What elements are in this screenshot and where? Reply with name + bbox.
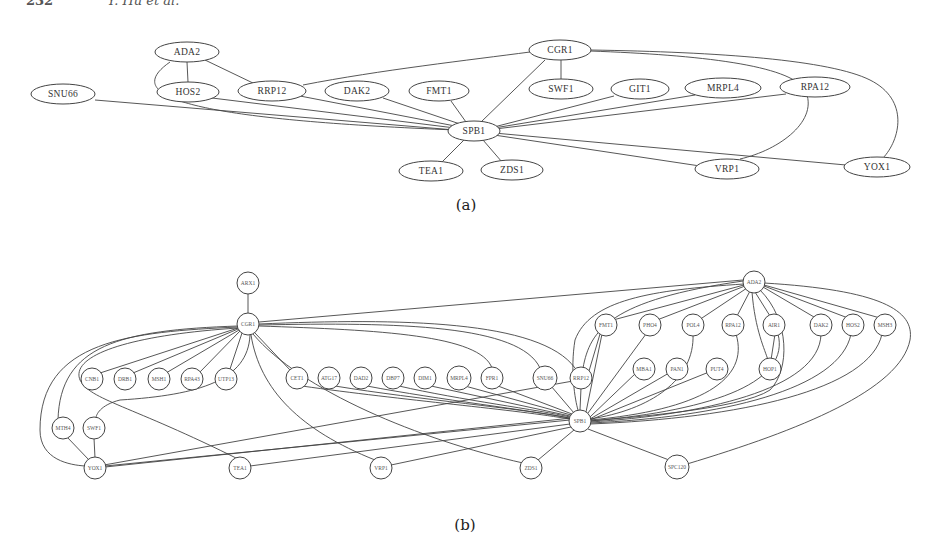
node-b-FPR1: FPR1 [481,367,503,389]
node-b-ARX1: ARX1 [237,272,259,294]
node-label: CGR1 [547,45,572,55]
node-label: SNU66 [48,89,78,99]
node-label: ADA2 [747,279,762,285]
node-b-YOX1: YOX1 [84,457,106,479]
node-label: MRPL4 [707,83,739,93]
node-label: RRP12 [258,86,287,96]
node-b-FMT1: FMT1 [595,314,617,336]
node-b-DRB1: DRB1 [114,368,136,390]
node-label: ZDS1 [524,465,537,471]
node-b-RPA43: RPA43 [181,368,203,390]
node-label: SPB1 [574,418,587,424]
node-label: RPA12 [725,322,741,328]
node-label: VRP1 [715,164,739,174]
node-label: CNB1 [85,376,99,382]
node-b-SPB1: SPB1 [569,410,591,432]
node-label: FPR1 [486,375,499,381]
node-a-SNU66: SNU66 [31,84,95,104]
node-b-PUT4: PUT4 [706,358,728,380]
node-label: SNU66 [537,375,554,381]
figure-canvas: ADA2 SNU66 HOS2 RRP12 DAK2 FMT1 CGR1 SWF… [0,0,935,542]
node-b-HOP1: HOP1 [759,358,781,380]
node-a-YOX1: YOX1 [844,157,910,177]
node-b-PAN1: PAN1 [666,358,688,380]
node-label: SPC120 [668,464,686,470]
node-label: CGR1 [241,321,255,327]
node-b-DBP7: DBP7 [382,367,404,389]
node-b-TEA1: TEA1 [229,457,251,479]
node-label: ATG17 [321,375,337,381]
node-b-MSH3: MSH3 [874,314,896,336]
node-a-ADA2: ADA2 [155,42,219,62]
node-label: MSH3 [878,322,893,328]
node-a-HOS2: HOS2 [157,82,219,102]
node-label: PHO4 [643,322,657,328]
node-label: DIM1 [418,375,432,381]
node-label: ARX1 [241,280,256,286]
node-b-MRPL4: MRPL4 [447,366,471,390]
node-b-CNB1: CNB1 [81,368,103,390]
node-b-RPA12: RPA12 [722,314,744,336]
figure-a-edges [95,50,898,166]
node-b-MSH1: MSH1 [148,368,170,390]
node-label: ZDS1 [500,165,524,175]
node-b-PHO4: PHO4 [639,314,661,336]
node-b-HOS2: HOS2 [842,314,864,336]
node-b-ZDS1: ZDS1 [520,457,542,479]
node-b-POL4: POL4 [682,314,704,336]
node-label: HOP1 [763,366,777,372]
node-label: FMT1 [599,322,613,328]
figure-a-nodes: ADA2 SNU66 HOS2 RRP12 DAK2 FMT1 CGR1 SWF… [31,40,910,181]
node-a-SWF1: SWF1 [529,79,593,99]
node-label: DAK2 [344,86,371,96]
node-label: HOS2 [846,322,860,328]
node-a-DAK2: DAK2 [325,81,389,101]
node-label: RPA43 [184,376,200,382]
node-label: YOX1 [88,465,103,471]
node-a-FMT1: FMT1 [409,81,469,101]
node-a-RRP12: RRP12 [238,81,306,101]
node-label: RPA12 [801,82,830,92]
node-a-VRP1: VRP1 [695,159,759,179]
node-a-ZDS1: ZDS1 [481,160,543,180]
node-label: DRB1 [118,376,132,382]
node-label: GIT1 [629,84,651,94]
node-label: SWF1 [548,84,573,94]
node-label: MBA1 [636,366,652,372]
node-b-DAK2: DAK2 [810,314,832,336]
node-label: MSH1 [152,376,167,382]
node-b-CET1: CET1 [286,367,308,389]
node-a-RPA12: RPA12 [780,77,850,97]
figure-a-caption: (a) [456,196,477,214]
node-label: SWF1 [87,425,101,431]
node-label: FMT1 [426,86,451,96]
node-label: PAN1 [670,366,683,372]
node-label: MRPL4 [450,375,468,381]
node-b-DAD2: DAD2 [350,367,372,389]
node-label: POL4 [686,322,699,328]
node-label: DAD2 [354,375,369,381]
node-b-SPC120: SPC120 [665,455,689,479]
node-b-VRP1: VRP1 [370,457,392,479]
node-label: VRP1 [374,465,388,471]
node-label: RRP12 [573,375,589,381]
node-a-TEA1: TEA1 [399,161,463,181]
node-a-MRPL4: MRPL4 [685,78,761,98]
node-b-MBA1: MBA1 [633,358,655,380]
node-a-GIT1: GIT1 [611,79,669,99]
node-label: MTH4 [56,425,71,431]
node-label: DBP7 [386,375,400,381]
node-a-CGR1: CGR1 [529,40,591,60]
node-label: TEA1 [233,465,247,471]
node-label: SPB1 [463,126,486,136]
node-label: CET1 [290,375,303,381]
node-b-CGR1: CGR1 [237,313,259,335]
node-b-ATG17: ATG17 [318,367,340,389]
node-label: ADA2 [174,47,201,57]
node-b-SWF1: SWF1 [83,417,105,439]
node-label: AIR1 [768,322,780,328]
node-label: YOX1 [864,162,891,172]
node-b-AIR1: AIR1 [763,314,785,336]
node-b-RRP12: RRP12 [570,367,592,389]
node-b-ADA2: ADA2 [743,271,765,293]
